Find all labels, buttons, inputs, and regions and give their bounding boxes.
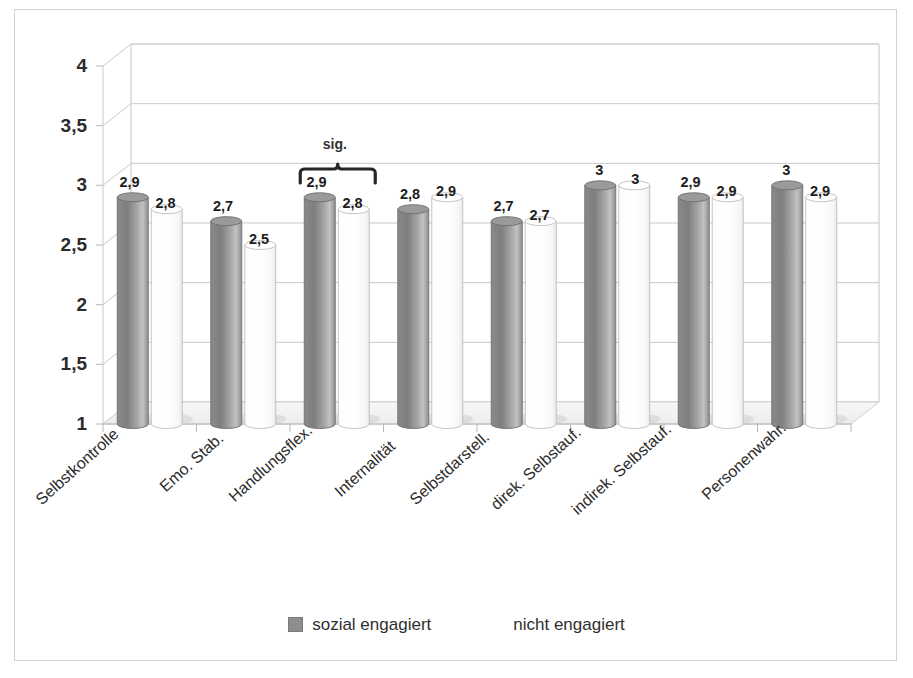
x-axis-category-label: indirek. Selbstauf. [569,421,674,518]
x-axis-category-label: Emo. Stab. [157,430,227,495]
x-axis-category-label: direk. Selbstauf. [488,424,584,513]
significance-annotation-label: sig. [323,137,347,151]
legend-swatch-icon [288,617,303,632]
x-axis-category-label: Selbstdarstell. [407,429,492,508]
chart-legend: sozial engagiert nicht engagiert [15,616,898,633]
legend-item-label: sozial engagiert [312,616,431,633]
x-axis-category-label: Selbstkontrolle [33,426,122,508]
legend-item-label: nicht engagiert [513,616,625,633]
legend-item-nicht-engagiert[interactable]: nicht engagiert [489,616,625,633]
x-axis-category-label: Personenwahr. [699,419,789,502]
x-axis-category-label: Handlungsflex. [226,422,315,505]
chart-container: 11,522,533,54 2,92,82,72,52,92,82,82,92,… [14,9,897,661]
chart-plot-area: 11,522,533,54 2,92,82,72,52,92,82,82,92,… [15,10,898,662]
legend-swatch-icon [489,617,504,632]
legend-item-sozial-engagiert[interactable]: sozial engagiert [288,616,431,633]
x-axis: SelbstkontrolleEmo. Stab.Handlungsflex.I… [15,10,898,662]
x-axis-category-label: Internalität [332,438,398,500]
